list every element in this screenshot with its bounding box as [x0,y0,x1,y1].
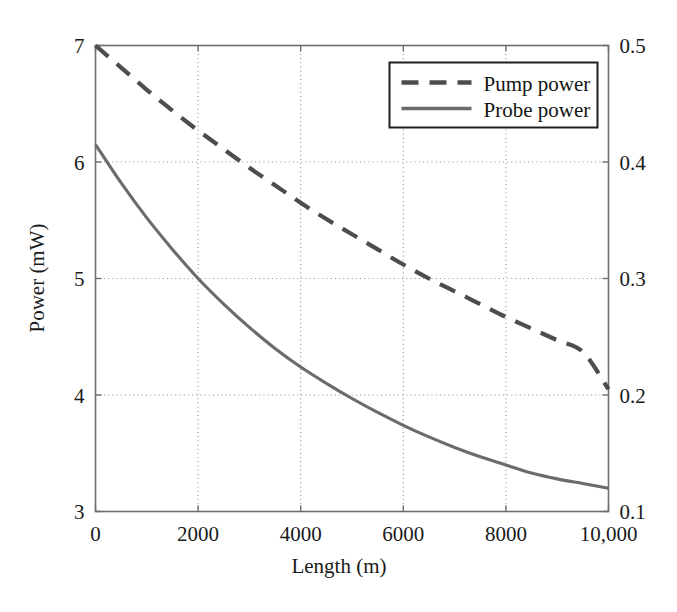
x-axis-title: Length (m) [291,554,386,578]
y-tick-label: 7 [74,34,85,58]
y-tick-label: 6 [74,151,85,175]
y-axis-title: Power (mW) [25,223,49,332]
x-tick-label: 4000 [280,522,322,546]
x-tick-label: 0 [90,522,101,546]
y2-tick-label: 0.3 [620,267,646,291]
y-tick-label: 4 [74,384,85,408]
x-tick-label: 2000 [177,522,219,546]
y-tick-label: 3 [74,500,85,524]
x-tick-label: 6000 [382,522,424,546]
x-tick-label: 8000 [485,522,527,546]
legend-label-probe-power: Probe power [484,98,591,122]
y2-tick-label: 0.4 [620,151,647,175]
y2-tick-label: 0.1 [620,500,646,524]
legend-label-pump-power: Pump power [484,72,591,96]
x-tick-label: 10,000 [580,522,638,546]
y2-tick-label: 0.2 [620,384,646,408]
power-vs-length-chart: 0200040006000800010,000 34567 0.10.20.30… [0,0,677,612]
y-tick-label: 5 [74,267,85,291]
y2-tick-label: 0.5 [620,34,646,58]
chart-legend[interactable]: Pump powerProbe power [390,63,598,128]
figure-container: 0200040006000800010,000 34567 0.10.20.30… [0,0,677,612]
